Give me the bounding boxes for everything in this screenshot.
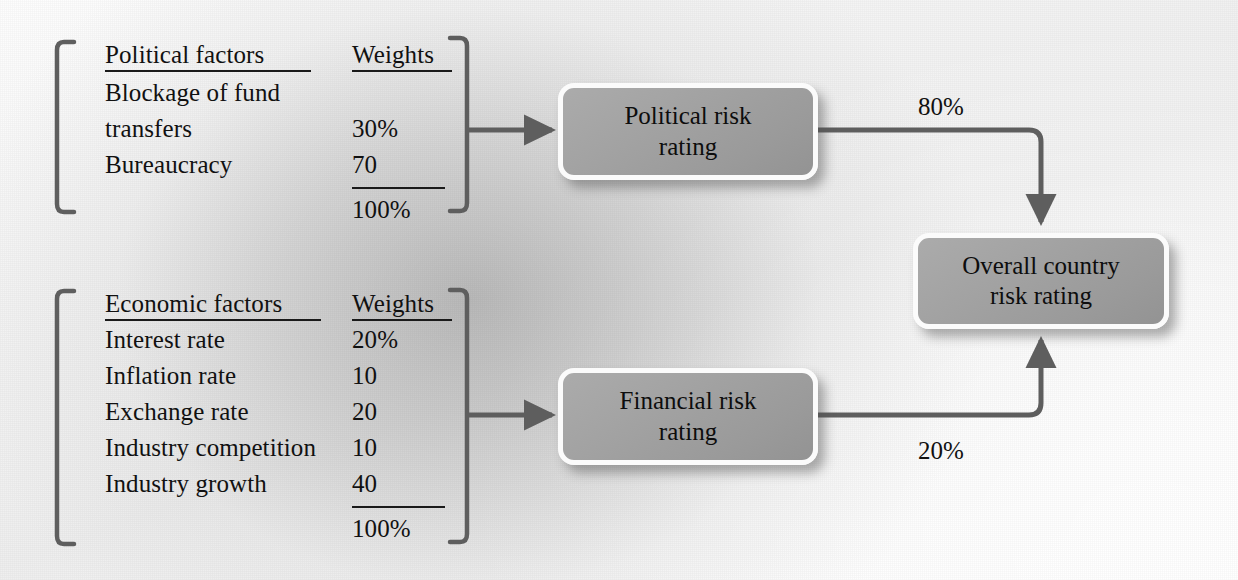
overall-country-risk-rating-label: Overall country risk rating: [954, 251, 1128, 312]
political-risk-rating-line2: rating: [659, 133, 717, 160]
economic-factors-header-rule: [105, 319, 321, 321]
political-row-weight-1: 30%: [352, 116, 398, 141]
overall-country-risk-rating-box[interactable]: Overall country risk rating: [913, 233, 1169, 329]
connector-political-to-overall: [818, 130, 1041, 222]
economic-row-label-4: Industry growth: [105, 471, 267, 496]
political-factors-header: Political factors: [105, 42, 264, 67]
political-factors-group: Political factors Weights Blockage of fu…: [105, 42, 435, 217]
economic-row-weight-4: 40: [352, 471, 377, 496]
political-factors-header-rule: [105, 70, 311, 72]
political-left-bracket: [57, 42, 74, 212]
financial-risk-rating-label: Financial risk rating: [612, 386, 765, 447]
overall-risk-rating-line1: Overall country: [962, 252, 1120, 279]
political-edge-weight-label: 80%: [918, 94, 964, 119]
political-row-label-1: transfers: [105, 116, 192, 141]
economic-weights-header: Weights: [352, 291, 434, 316]
financial-risk-rating-line1: Financial risk: [620, 387, 757, 414]
economic-row-label-1: Inflation rate: [105, 363, 236, 388]
connector-financial-to-overall: [818, 340, 1041, 415]
economic-right-bracket: [450, 290, 467, 542]
overall-risk-rating-line2: risk rating: [990, 282, 1092, 309]
economic-row-weight-3: 10: [352, 435, 377, 460]
economic-factors-group: Economic factors Weights Interest rate 2…: [105, 291, 445, 536]
economic-weights-header-rule: [352, 319, 452, 321]
political-row-label-0: Blockage of fund: [105, 80, 280, 105]
economic-row-weight-1: 10: [352, 363, 377, 388]
political-weights-header: Weights: [352, 42, 434, 67]
political-risk-rating-box[interactable]: Political risk rating: [558, 83, 818, 180]
political-row-weight-2: 70: [352, 152, 377, 177]
financial-edge-weight-label: 20%: [918, 438, 964, 463]
financial-risk-rating-line2: rating: [659, 418, 717, 445]
economic-row-label-3: Industry competition: [105, 435, 316, 460]
economic-row-label-0: Interest rate: [105, 327, 225, 352]
political-row-label-2: Bureaucracy: [105, 152, 232, 177]
economic-factors-header: Economic factors: [105, 291, 282, 316]
political-risk-rating-line1: Political risk: [624, 102, 751, 129]
diagram-canvas: Political factors Weights Blockage of fu…: [0, 0, 1238, 580]
economic-row-weight-2: 20: [352, 399, 377, 424]
economic-total-weight: 100%: [352, 516, 411, 541]
political-total-weight: 100%: [352, 197, 411, 222]
political-total-rule: [352, 187, 445, 189]
economic-row-weight-0: 20%: [352, 327, 398, 352]
economic-row-label-2: Exchange rate: [105, 399, 249, 424]
political-right-bracket: [450, 38, 467, 211]
political-risk-rating-label: Political risk rating: [616, 101, 759, 162]
political-weights-header-rule: [352, 70, 452, 72]
economic-left-bracket: [57, 291, 74, 544]
economic-total-rule: [352, 506, 445, 508]
financial-risk-rating-box[interactable]: Financial risk rating: [558, 368, 818, 465]
